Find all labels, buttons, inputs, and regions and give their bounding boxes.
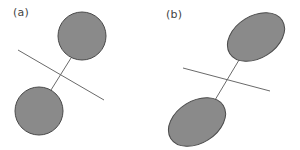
crossing-line <box>183 68 270 91</box>
connector-line <box>215 60 239 100</box>
panel-a: (a) <box>0 0 150 150</box>
connector-line <box>51 58 71 90</box>
panel-a-diagram <box>0 0 150 150</box>
top-circle <box>58 12 106 60</box>
panel-b: (b) <box>150 0 300 150</box>
top-ellipse <box>219 3 294 71</box>
panel-b-diagram <box>150 0 300 150</box>
bottom-circle <box>15 87 63 135</box>
bottom-ellipse <box>160 88 235 150</box>
